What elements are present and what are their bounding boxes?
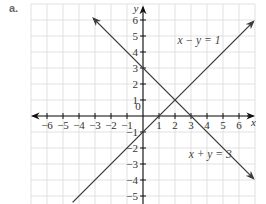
y-tick-label: 5 <box>133 30 139 42</box>
equation-label: x − y = 1 <box>177 34 221 47</box>
y-tick-label: −5 <box>126 190 138 202</box>
x-tick-label: −5 <box>57 119 69 131</box>
x-tick-label: −6 <box>41 119 53 131</box>
y-tick-label: 3 <box>133 62 139 74</box>
y-axis-label: y <box>133 2 139 14</box>
y-tick-label: −4 <box>126 174 138 186</box>
y-tick-label: 2 <box>133 78 139 90</box>
line-x-minus-y-equals-1 <box>73 22 254 203</box>
coordinate-plane: xy−6−5−4−3−2−10123456−5−4−3−2−1123456x −… <box>0 0 266 204</box>
y-tick-label: −3 <box>126 158 138 170</box>
x-tick-label: 2 <box>172 119 178 131</box>
x-tick-label: 3 <box>188 119 194 131</box>
x-tick-label: −3 <box>89 119 101 131</box>
y-tick-label: 1 <box>133 94 139 106</box>
x-tick-label: −2 <box>105 119 117 131</box>
x-tick-label: 6 <box>236 119 242 131</box>
y-tick-label: −2 <box>126 142 138 154</box>
x-tick-label: 1 <box>156 119 162 131</box>
equation-label: x + y = 3 <box>188 148 232 161</box>
tick-labels: xy−6−5−4−3−2−10123456−5−4−3−2−1123456x −… <box>41 2 256 202</box>
x-axis-label: x <box>250 116 256 128</box>
plotted-lines <box>73 18 254 202</box>
x-tick-label: 5 <box>220 119 226 131</box>
x-tick-label: 4 <box>204 119 210 131</box>
x-tick-label: −4 <box>73 119 85 131</box>
y-tick-label: 6 <box>133 14 139 26</box>
y-tick-label: −1 <box>126 126 138 138</box>
y-tick-label: 4 <box>133 46 139 58</box>
